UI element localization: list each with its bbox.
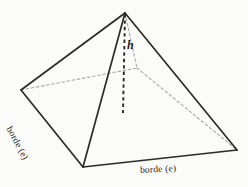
solid-edge-apex-to-base-front bbox=[83, 13, 125, 167]
solid-edge-base-front-to-right bbox=[83, 150, 237, 167]
solid-edge-apex-to-base-left bbox=[21, 13, 125, 90]
hidden-edge-base-left-to-back bbox=[21, 68, 137, 90]
hidden-edge-base-back-to-right bbox=[137, 68, 237, 150]
height-dashed-line bbox=[123, 14, 125, 113]
solid-edge-apex-to-base-right bbox=[125, 13, 237, 150]
solid-edge-base-left-to-front bbox=[21, 90, 83, 167]
solid-edges-group bbox=[21, 13, 237, 167]
pyramid-drawing bbox=[0, 0, 248, 187]
pyramid-figure: h borde (e) borde (e) bbox=[0, 0, 248, 187]
